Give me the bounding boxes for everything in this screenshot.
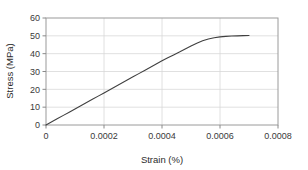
x-tick-label: 0.0008 bbox=[264, 131, 292, 141]
y-tick-label: 30 bbox=[30, 67, 40, 77]
y-tick-label: 40 bbox=[30, 49, 40, 59]
y-tick-label: 50 bbox=[30, 31, 40, 41]
y-tick-label: 60 bbox=[30, 13, 40, 23]
y-axis-title: Stress (MPa) bbox=[4, 43, 15, 98]
x-tick-label: 0.0004 bbox=[148, 131, 176, 141]
x-axis-title: Strain (%) bbox=[141, 154, 183, 165]
y-tick-label: 0 bbox=[35, 120, 40, 130]
stress-strain-chart: 0102030405060 00.00020.00040.00060.0008 … bbox=[0, 0, 308, 170]
y-tick-label: 10 bbox=[30, 102, 40, 112]
chart-canvas: 0102030405060 00.00020.00040.00060.0008 … bbox=[0, 0, 308, 170]
y-tick-label: 20 bbox=[30, 85, 40, 95]
x-tick-label: 0.0006 bbox=[206, 131, 234, 141]
x-tick-label: 0 bbox=[43, 131, 48, 141]
x-tick-label: 0.0002 bbox=[90, 131, 118, 141]
